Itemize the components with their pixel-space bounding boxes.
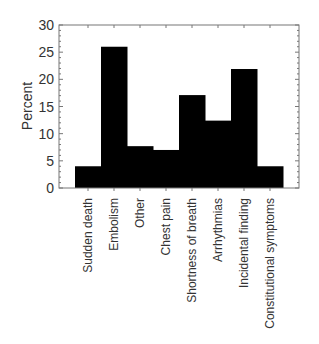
y-axis-label: Percent xyxy=(19,82,35,130)
y-tick-label: 10 xyxy=(38,126,54,142)
bar xyxy=(101,47,128,188)
x-tick-label: Embolism xyxy=(107,198,121,251)
x-tick-label: Sudden death xyxy=(81,198,95,273)
x-tick-label: Arrhythmias xyxy=(211,198,225,262)
y-tick-label: 15 xyxy=(38,99,54,115)
x-tick-label: Chest pain xyxy=(159,198,173,255)
bar xyxy=(205,121,232,188)
bar xyxy=(75,166,102,188)
bar xyxy=(179,95,206,188)
bar xyxy=(231,69,258,188)
bar-chart: 051015202530 Sudden deathEmbolismOtherCh… xyxy=(0,0,319,344)
bar xyxy=(127,146,154,188)
y-tick-label: 5 xyxy=(46,153,54,169)
bar xyxy=(257,166,284,188)
x-tick-label: Constitutional symptoms xyxy=(263,198,277,329)
x-tick-label: Shortness of breath xyxy=(185,198,199,303)
y-tick-label: 20 xyxy=(38,71,54,87)
y-tick-label: 30 xyxy=(38,17,54,33)
x-tick-label: Other xyxy=(133,198,147,228)
x-tick-label: Incidental finding xyxy=(237,198,251,288)
bar xyxy=(153,150,180,188)
y-tick-label: 0 xyxy=(46,180,54,196)
y-tick-label: 25 xyxy=(38,44,54,60)
bars xyxy=(75,47,284,188)
